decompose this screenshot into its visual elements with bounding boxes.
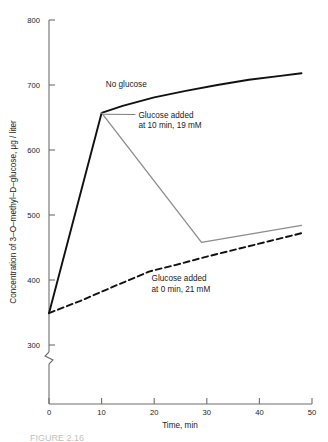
- annotation-label: Glucose added: [138, 111, 194, 120]
- x-tick-label: 30: [203, 408, 211, 417]
- y-tick-label: 500: [27, 211, 40, 220]
- x-tick-label: 0: [47, 408, 51, 417]
- y-axis-title: Concentration of 3–O–methyl–D–glucose, μ…: [9, 120, 18, 304]
- annotation-label: at 10 min, 19 mM: [138, 121, 201, 130]
- x-tick-label: 10: [97, 408, 105, 417]
- annotation-label: Glucose added: [152, 274, 208, 283]
- y-tick-label: 600: [27, 146, 40, 155]
- x-axis-title: Time, min: [162, 421, 198, 430]
- y-tick-label: 800: [27, 16, 40, 25]
- line-chart: 300400500600700800 01020304050 Time, min…: [0, 0, 328, 442]
- annotation-label: at 0 min, 21 mM: [152, 285, 211, 294]
- figure-container: 300400500600700800 01020304050 Time, min…: [0, 0, 328, 442]
- x-tick-label: 40: [255, 408, 263, 417]
- x-tick-label: 20: [150, 408, 158, 417]
- annotation-label: No glucose: [106, 80, 147, 89]
- x-tick-label: 50: [308, 408, 316, 417]
- figure-caption: FIGURE 2.16: [30, 433, 84, 442]
- y-tick-label: 700: [27, 81, 40, 90]
- y-tick-label: 300: [27, 341, 40, 350]
- y-tick-label: 400: [27, 276, 40, 285]
